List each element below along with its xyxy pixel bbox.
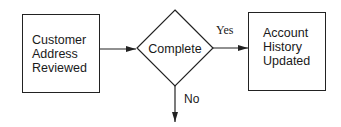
node-label-line: Reviewed [32,61,87,75]
node-label-line: Updated [263,54,310,68]
node-customer-address-reviewed: Customer Address Reviewed [22,14,100,93]
decision-label: Complete [143,42,207,56]
edge-label-yes: Yes [216,23,233,38]
node-label-line: Customer [32,33,86,47]
node-label-line: History [263,40,302,54]
node-label-line: Account [263,26,308,40]
node-label-line: Address [32,47,78,61]
edge-label-no: No [184,92,199,106]
node-account-history-updated: Account History Updated [248,12,326,91]
